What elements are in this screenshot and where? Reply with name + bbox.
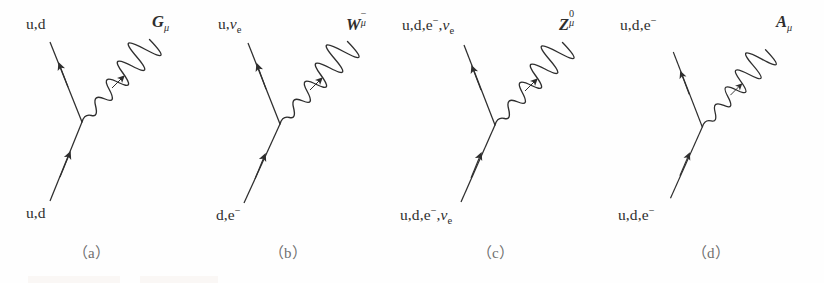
- electron-charge-superscript: −: [649, 205, 655, 216]
- photon-wavy-line: [702, 50, 776, 127]
- outgoing-fermion-arrow: [60, 66, 68, 87]
- panel-caption-b: （b）: [269, 241, 307, 262]
- electron-charge-superscript: −: [651, 15, 657, 26]
- outgoing-particle-label: u,d: [26, 16, 46, 32]
- incoming-fermion-arrow: [255, 157, 264, 179]
- diagram-panel-z-boson: u,d,e−,νe u,d,e−,νe Z0μ （c）: [396, 0, 602, 283]
- incoming-particle-label: u,d: [26, 205, 46, 221]
- diagram-panel-photon: u,d,e− u,d,e− Aμ （d）: [604, 0, 810, 283]
- outgoing-fermion-arrow: [258, 67, 266, 89]
- diagram-panel-gluon: u,d u,d Gμ （a）: [0, 0, 206, 283]
- neutrino-flavor-subscript: e: [448, 215, 453, 226]
- w-boson-scripts: −μ: [361, 13, 371, 30]
- incoming-particle-label: d,e−: [216, 206, 241, 223]
- z-boson-wavy-line: [495, 43, 574, 126]
- neutrino-symbol: ν: [443, 16, 450, 33]
- neutrino-symbol: ν: [230, 15, 237, 32]
- w-boson-wavy-line: [280, 42, 359, 125]
- w-boson-label: W−μ: [346, 13, 371, 33]
- incoming-fermion-arrow: [471, 156, 480, 178]
- feynman-diagram-figure: u,d u,d Gμ （a） u,νe d: [0, 0, 824, 283]
- gluon-boson-label: Gμ: [152, 14, 169, 34]
- mu-subscript: μ: [787, 22, 792, 33]
- incoming-fermion-line: [670, 127, 702, 198]
- incoming-fermion-line: [461, 125, 495, 202]
- outgoing-fermion-arrow: [682, 75, 689, 95]
- mu-subscript: μ: [361, 18, 366, 28]
- panel-caption-d: （d）: [692, 241, 730, 262]
- neutrino-flavor-subscript: e: [450, 25, 455, 36]
- incoming-fermion-arrow: [60, 155, 69, 177]
- scan-artifact-right: [140, 276, 218, 283]
- outgoing-particle-label: u,νe: [218, 16, 242, 36]
- diagram-panel-w-boson: u,νe d,e− W−μ （b）: [196, 0, 402, 283]
- gluon-wavy-line: [82, 40, 161, 123]
- incoming-particle-label: u,d,e−: [618, 206, 655, 223]
- incoming-fermion-line: [244, 124, 280, 203]
- incoming-particle-label: u,d,e−,νe: [400, 206, 452, 227]
- outgoing-fermion-arrow: [473, 69, 481, 90]
- outgoing-particle-label: u,d,e−,νe: [402, 16, 454, 37]
- panel-caption-a: （a）: [73, 241, 110, 262]
- z-boson-scripts: 0μ: [569, 13, 579, 30]
- z-boson-label: Z0μ: [559, 13, 579, 33]
- photon-boson-label: Aμ: [776, 14, 792, 34]
- outgoing-particle-label: u,d,e−: [620, 16, 657, 33]
- neutrino-symbol: ν: [441, 206, 448, 223]
- panel-caption-c: （c）: [477, 241, 514, 262]
- incoming-fermion-arrow: [680, 156, 688, 176]
- mu-subscript: μ: [569, 18, 574, 28]
- mu-subscript: μ: [164, 22, 169, 33]
- electron-charge-superscript: −: [235, 205, 241, 216]
- neutrino-flavor-subscript: e: [237, 24, 242, 35]
- scan-artifact-left: [28, 276, 120, 283]
